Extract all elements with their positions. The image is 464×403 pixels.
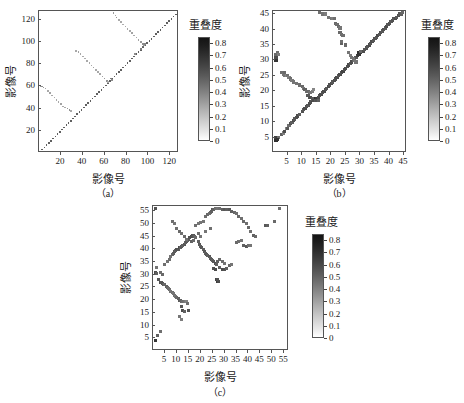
x-tick-mark: [316, 152, 317, 155]
y-tick-mark: [272, 44, 275, 45]
x-tick-label: 5: [284, 156, 289, 166]
colorbar-tick-mark: [440, 141, 443, 142]
y-tick-label: 50: [130, 218, 149, 228]
data-point: [240, 239, 243, 242]
data-point: [186, 302, 189, 305]
colorbar-tick-mark: [440, 43, 443, 44]
y-tick-mark: [152, 312, 155, 313]
y-tick-mark: [272, 75, 275, 76]
data-point: [286, 127, 289, 130]
colorbar-tick-mark: [440, 55, 443, 56]
x-tick-label: 30: [219, 354, 228, 364]
data-point: [70, 110, 72, 112]
y-tick-mark: [38, 41, 41, 42]
y-tick-label: 20: [16, 125, 35, 135]
data-point: [68, 122, 70, 124]
data-point: [156, 334, 159, 337]
data-point: [154, 339, 157, 342]
data-point: [276, 138, 279, 141]
y-tick-label: 40: [250, 24, 269, 34]
data-point: [155, 266, 158, 269]
colorbar-tick-label: 0.5: [329, 272, 340, 282]
data-point: [81, 109, 83, 111]
x-tick-mark: [359, 152, 360, 155]
y-tick-label: 10: [130, 320, 149, 330]
x-tick-mark: [287, 152, 288, 155]
data-point: [166, 22, 168, 24]
x-tick-label: 35: [369, 156, 378, 166]
data-point: [157, 31, 159, 33]
data-point: [61, 129, 63, 131]
data-point: [230, 263, 233, 266]
data-point: [129, 60, 131, 62]
colorbar-tick-label: 0.7: [445, 50, 456, 60]
data-point: [216, 278, 219, 281]
data-point: [338, 26, 341, 29]
colorbar-tick-mark: [210, 129, 213, 130]
data-point: [344, 43, 347, 46]
x-tick-label: 40: [77, 156, 86, 166]
data-point: [66, 124, 68, 126]
data-point: [79, 111, 81, 113]
data-point: [155, 272, 158, 275]
x-tick-mark: [164, 350, 165, 353]
data-point: [266, 224, 269, 227]
data-point: [401, 11, 404, 14]
y-tick-label: 80: [16, 58, 35, 68]
data-point: [138, 51, 140, 53]
data-point: [164, 25, 166, 27]
x-tick-mark: [345, 152, 346, 155]
x-tick-mark: [271, 350, 272, 353]
data-point: [55, 136, 57, 138]
x-tick-mark: [82, 152, 83, 155]
y-tick-label: 40: [16, 103, 35, 113]
data-point: [125, 65, 127, 67]
data-point: [153, 36, 155, 38]
data-point: [72, 118, 74, 120]
colorbar-tick-mark: [324, 314, 327, 315]
y-tick-mark: [272, 29, 275, 30]
data-point: [183, 310, 186, 313]
y-tick-mark: [272, 59, 275, 60]
colorbar-tick-label: 0.3: [215, 99, 226, 109]
y-tick-label: 35: [250, 39, 269, 49]
data-point: [283, 71, 286, 74]
colorbar-tick-mark: [210, 80, 213, 81]
colorbar-tick-mark: [440, 104, 443, 105]
panel-c-plot-canvas: [153, 206, 287, 349]
y-tick-mark: [152, 223, 155, 224]
data-point: [173, 222, 176, 225]
x-tick-label: 15: [183, 354, 192, 364]
colorbar-tick-label: 0: [329, 333, 334, 343]
y-tick-label: 5: [250, 132, 269, 142]
data-point: [245, 222, 248, 225]
x-tick-label: 25: [207, 354, 216, 364]
data-point: [83, 107, 85, 109]
data-point: [168, 20, 170, 22]
data-point: [204, 230, 207, 233]
colorbar-tick-mark: [210, 92, 213, 93]
colorbar-tick-mark: [324, 289, 327, 290]
x-tick-mark: [169, 152, 170, 155]
colorbar-tick-mark: [324, 252, 327, 253]
x-tick-mark: [301, 152, 302, 155]
data-point: [214, 268, 217, 271]
panel-c-plot-frame: [152, 205, 288, 350]
data-point: [278, 207, 281, 210]
data-point: [52, 138, 54, 140]
data-point: [74, 116, 76, 118]
x-tick-label: 55: [279, 354, 288, 364]
colorbar-tick-mark: [324, 265, 327, 266]
colorbar-tick-label: 0.1: [215, 124, 226, 134]
colorbar-tick-label: 0.6: [215, 63, 226, 73]
colorbar-tick-label: 0.6: [445, 63, 456, 73]
colorbar-tick-mark: [210, 68, 213, 69]
data-point: [131, 58, 133, 60]
data-point: [140, 48, 142, 50]
data-point: [107, 81, 109, 83]
colorbar-tick-label: 0.2: [215, 112, 226, 122]
y-tick-mark: [152, 286, 155, 287]
x-tick-label: 20: [326, 156, 335, 166]
data-point: [254, 235, 257, 238]
data-point: [249, 244, 252, 247]
